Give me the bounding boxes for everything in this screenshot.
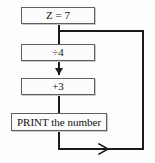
loop-right-arrowhead-icon [98,143,107,154]
loop-top-horizontal-line [58,30,144,32]
node-print-label: PRINT the number [17,117,101,128]
node-add-box: +3 [21,78,95,95]
node-start-box: Z = 7 [21,7,95,24]
loop-right-vertical-line [142,30,144,150]
node-start-label: Z = 7 [46,10,70,21]
node-divide-label: ÷4 [52,47,64,58]
divide-to-add-arrowhead-icon [55,68,63,75]
add-to-print-line [58,95,60,113]
node-add-label: +3 [52,81,64,92]
print-to-loop-vertical-line [58,131,60,150]
flowchart-diagram: Z = 7 ÷4 +3 PRINT the number [0,0,155,163]
node-divide-box: ÷4 [21,44,95,61]
start-to-divide-line [58,24,60,44]
node-print-box: PRINT the number [11,113,107,131]
